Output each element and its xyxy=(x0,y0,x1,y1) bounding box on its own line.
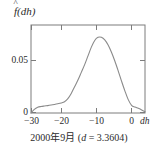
y-axis-ticks-left xyxy=(31,61,36,113)
x-axis-label: dh xyxy=(140,117,150,127)
y-tick-label-0.05: 0.05 xyxy=(6,56,28,66)
caption-month-unit: 月 xyxy=(65,132,75,143)
y-axis-ticks-right xyxy=(140,61,145,113)
caption-paren-close: ) xyxy=(124,132,127,143)
x-tick-label--20: −20 xyxy=(50,117,73,127)
x-tick-label-0: 0 xyxy=(124,117,139,127)
figure-caption: 2000年9月 (d = 3.3604) xyxy=(0,133,158,143)
density-curve xyxy=(31,37,145,113)
caption-value: 3.3604 xyxy=(97,132,125,143)
figure-container: f(dh) 0.05 0 −30 xyxy=(0,0,158,154)
caption-equals: = xyxy=(86,132,97,143)
caption-year-unit: 年 xyxy=(50,132,60,143)
x-axis-ticks-bottom xyxy=(32,108,132,113)
plot-svg xyxy=(0,0,158,154)
x-tick-label--10: −10 xyxy=(85,117,108,127)
x-tick-label--30: −30 xyxy=(20,117,43,127)
x-axis-ticks-top xyxy=(32,25,132,30)
caption-year: 2000 xyxy=(30,132,50,143)
